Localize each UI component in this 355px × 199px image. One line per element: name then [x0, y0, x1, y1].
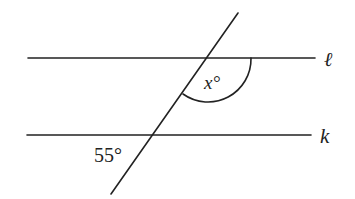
angle-x-label: x° [203, 72, 220, 93]
geometry-figure: ℓ k x° 55° [0, 0, 355, 199]
angle-55-label: 55° [94, 144, 122, 166]
diagram-canvas: ℓ k x° 55° [0, 0, 355, 199]
transversal-line [111, 13, 238, 194]
line-k-label: k [320, 124, 330, 148]
line-l-label: ℓ [324, 48, 333, 70]
